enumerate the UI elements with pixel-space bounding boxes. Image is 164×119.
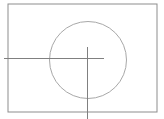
drawing-canvas: [0, 0, 164, 119]
technical-drawing-svg: [0, 0, 164, 119]
